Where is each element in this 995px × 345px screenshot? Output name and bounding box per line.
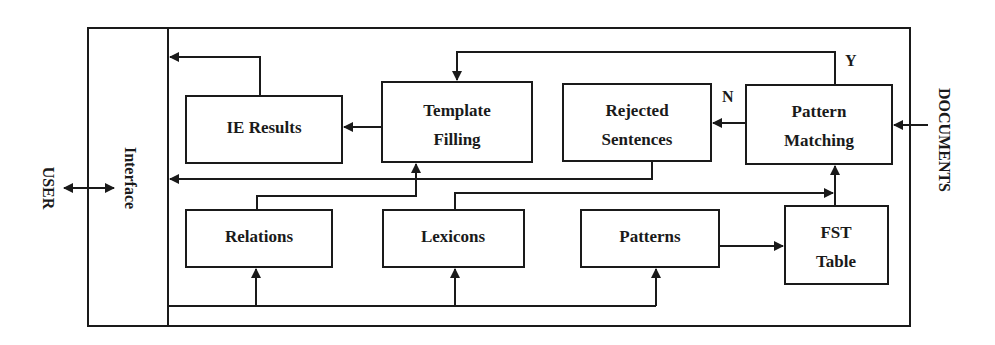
svg-text:Rejected: Rejected (605, 101, 669, 120)
edge-ie-results-to-interface (170, 57, 260, 96)
system-architecture-diagram: Interface USER DOCUMENTS IE Results Temp… (0, 0, 995, 345)
node-lexicons: Lexicons (383, 210, 524, 267)
svg-text:FST: FST (820, 223, 852, 242)
user-label: USER (40, 167, 57, 210)
edge-pattern-matching-to-template-yes (457, 52, 835, 85)
edge-label-yes: Y (845, 52, 857, 69)
svg-text:Lexicons: Lexicons (421, 227, 486, 246)
node-template-filling: Template Filling (382, 82, 532, 162)
edge-label-no: N (722, 88, 734, 105)
documents-entity: DOCUMENTS (894, 88, 953, 192)
svg-text:Filling: Filling (433, 130, 481, 149)
svg-text:Matching: Matching (784, 131, 854, 150)
node-fst-table: FST Table (785, 206, 888, 284)
node-patterns: Patterns (581, 210, 719, 267)
user-entity: USER (40, 167, 114, 210)
svg-text:Sentences: Sentences (602, 130, 673, 149)
edge-relations-to-template (257, 164, 416, 210)
interface-label: Interface (122, 147, 139, 209)
svg-text:Table: Table (816, 252, 856, 271)
interface-panel: Interface (122, 28, 168, 326)
node-pattern-matching: Pattern Matching (746, 85, 892, 164)
node-relations: Relations (186, 210, 332, 267)
edge-lexicons-to-pattern-matching (455, 193, 833, 210)
node-ie-results: IE Results (186, 96, 342, 163)
svg-text:IE Results: IE Results (226, 118, 301, 137)
svg-text:Patterns: Patterns (619, 227, 681, 246)
svg-text:Template: Template (423, 101, 491, 120)
svg-text:Relations: Relations (225, 227, 293, 246)
svg-text:Pattern: Pattern (792, 102, 847, 121)
documents-label: DOCUMENTS (936, 88, 953, 192)
node-rejected-sentences: Rejected Sentences (563, 84, 711, 161)
